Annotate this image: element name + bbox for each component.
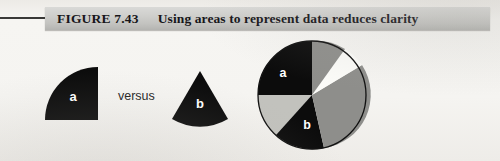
figure-number-label: FIGURE 7.43	[57, 11, 139, 27]
wedge-a-label: a	[69, 89, 77, 104]
pie-chart	[258, 41, 371, 149]
pie-label-b: b	[303, 118, 311, 132]
figure-caption-text: Using areas to represent data reduces cl…	[158, 11, 419, 27]
wedge-b-label: b	[196, 96, 204, 111]
figure-caption-bar: FIGURE 7.43 Using areas to represent dat…	[45, 7, 490, 30]
figure-page: FIGURE 7.43 Using areas to represent dat…	[0, 0, 500, 161]
pie-label-a: a	[280, 66, 288, 80]
figure-artwork: a versus b	[0, 30, 500, 161]
versus-label: versus	[118, 89, 155, 103]
